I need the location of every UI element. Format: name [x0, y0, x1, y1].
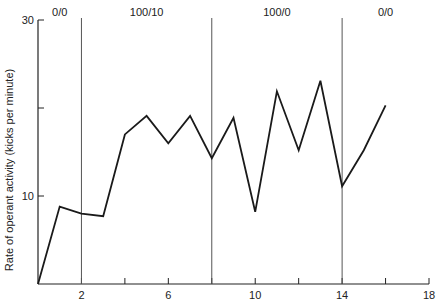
chart-canvas: Rate of operant activity (kicks per minu…: [0, 0, 438, 304]
x-tick-label: 2: [78, 289, 84, 301]
phase-label: 100/10: [130, 6, 164, 18]
line-chart: Rate of operant activity (kicks per minu…: [0, 0, 438, 304]
y-tick-label: 30: [22, 14, 34, 26]
x-tick-label: 10: [249, 289, 261, 301]
x-tick-label: 14: [336, 289, 348, 301]
phase-labels: 0/0100/10100/00/0: [52, 6, 393, 18]
x-tick-label: 18: [423, 289, 435, 301]
y-tick-label: 10: [22, 190, 34, 202]
x-tick-label: 6: [165, 289, 171, 301]
phase-label: 0/0: [52, 6, 67, 18]
phase-label: 100/0: [263, 6, 291, 18]
y-axis-title: Rate of operant activity (kicks per minu…: [3, 69, 15, 271]
y-axis-label: Rate of operant activity (kicks per minu…: [3, 69, 15, 271]
axes: 261014181030: [22, 14, 435, 301]
phase-label: 0/0: [378, 6, 393, 18]
